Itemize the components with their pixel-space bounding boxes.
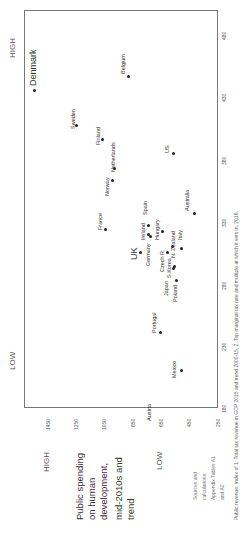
side-title-line-3: development, xyxy=(98,463,109,520)
label-czech-r: Czech R. xyxy=(159,249,165,272)
point-mexico xyxy=(180,369,183,372)
point-italy xyxy=(180,247,183,250)
point-spain xyxy=(147,224,150,227)
point-norway xyxy=(111,179,114,182)
x-tick: 230 xyxy=(221,343,227,351)
sources-line-2: calculations: xyxy=(200,472,209,500)
point-belgium xyxy=(127,75,130,78)
side-title-line-2: on human xyxy=(86,478,97,520)
label-france: France xyxy=(97,213,103,230)
label-hungary: Hungary xyxy=(154,219,160,240)
label-ireland: Ireland xyxy=(140,223,146,240)
label-austria: Austria xyxy=(146,404,152,421)
x-low-label: LOW xyxy=(8,352,17,370)
point-denmark xyxy=(33,89,36,92)
side-title-line-4: mid-2010s and xyxy=(113,457,124,520)
chart-page: HIGH LOW 180 230 280 330 380 430 480 145… xyxy=(0,0,243,537)
chart-caption: Public revenue: Index of 1. Total tax re… xyxy=(233,211,239,520)
x-tick: 330 xyxy=(221,219,227,227)
y-tick: 450 xyxy=(186,419,192,427)
y-tick: 1050 xyxy=(101,419,107,430)
point-hungary xyxy=(161,230,164,233)
y-tick: 1250 xyxy=(73,419,79,430)
label-japan: Japan xyxy=(163,281,169,296)
side-title-line-1: Public spending xyxy=(74,453,85,520)
label-uk: UK xyxy=(129,247,139,260)
sources-line-4: and A2 xyxy=(218,484,227,500)
label-italy: Italy xyxy=(177,230,183,240)
label-n-zealand: N. Zealand xyxy=(170,231,176,258)
label-portugal: Portugal xyxy=(151,313,157,334)
label-australia: Australia xyxy=(184,190,190,211)
y-tick: 250 xyxy=(215,419,221,427)
label-netherlands: Netherlands xyxy=(110,142,116,172)
point-poland xyxy=(175,279,178,282)
point-portugal xyxy=(159,331,162,334)
label-belgium: Belgium xyxy=(120,54,126,74)
label-sweden: Sweden xyxy=(70,109,76,129)
x-tick: 480 xyxy=(221,32,227,40)
x-tick: 430 xyxy=(221,94,227,102)
point-germany xyxy=(149,235,152,238)
label-mexico: Mexico xyxy=(171,361,177,378)
y-low-label: LOW xyxy=(155,452,164,470)
point-us xyxy=(172,152,175,155)
y-tick: 1450 xyxy=(45,419,51,430)
x-tick: 180 xyxy=(221,405,227,413)
point-czech-r xyxy=(166,251,169,254)
x-tick: 380 xyxy=(221,157,227,165)
label-poland: Poland xyxy=(172,285,178,302)
y-high-label: HIGH xyxy=(42,452,51,472)
point-australia xyxy=(193,212,196,215)
x-axis-line xyxy=(217,10,218,408)
label-norway: Norway xyxy=(104,177,110,196)
label-finland: Finland xyxy=(95,127,101,145)
point-s-korea xyxy=(173,265,176,268)
label-germany: Germany xyxy=(145,243,151,266)
point-france xyxy=(104,228,107,231)
x-high-label: HIGH xyxy=(8,38,17,58)
sources-line-3: Appendix Tables A1 xyxy=(209,456,218,500)
label-denmark: Denmark xyxy=(28,49,38,86)
label-spain: Spain xyxy=(142,201,148,215)
side-title-line-5: trend xyxy=(125,498,136,520)
sources-line-1: Sources and xyxy=(191,472,200,500)
label-s-korea: S.Korea xyxy=(166,258,172,278)
label-us: US xyxy=(164,145,170,153)
y-tick: 650 xyxy=(158,419,164,427)
x-tick: 280 xyxy=(221,282,227,290)
y-tick: 850 xyxy=(130,419,136,427)
